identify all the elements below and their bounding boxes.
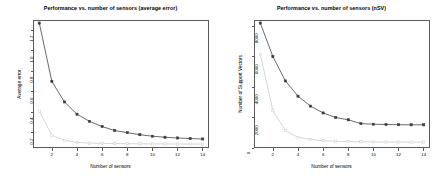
data-point-marker: [76, 141, 78, 143]
x-tick-mark: [323, 148, 324, 151]
data-point-marker: [347, 119, 349, 121]
y-tick-label: 0.8: [29, 77, 34, 83]
data-point-marker: [372, 141, 374, 143]
x-tick-label: 12: [389, 152, 409, 157]
x-tick-mark: [127, 148, 128, 151]
data-point-marker: [114, 143, 116, 145]
x-tick-mark: [398, 148, 399, 151]
data-point-marker: [335, 116, 337, 118]
data-point-marker: [126, 132, 128, 134]
x-tick-label: 4: [67, 152, 87, 157]
data-point-marker: [76, 113, 78, 115]
data-point-marker: [202, 138, 204, 140]
data-point-marker: [284, 80, 286, 82]
y-tick-mark: [252, 26, 255, 27]
x-tick-mark: [102, 148, 103, 151]
x-tick-label: 12: [168, 152, 188, 157]
data-point-marker: [309, 138, 311, 140]
x-tick-mark: [52, 148, 53, 151]
data-point-marker: [397, 141, 399, 143]
y-tick-label: 0: [246, 152, 251, 154]
x-tick-label: 10: [363, 152, 383, 157]
data-point-marker: [397, 124, 399, 126]
series-line: [260, 23, 423, 125]
y-tick-label: 4000: [254, 94, 259, 104]
data-point-marker: [202, 143, 204, 145]
x-tick-label: 14: [414, 152, 434, 157]
x-tick-label: 4: [288, 152, 308, 157]
data-point-marker: [51, 134, 53, 136]
data-point-marker: [360, 141, 362, 143]
x-tick-label: 2: [42, 152, 62, 157]
x-tick-mark: [273, 148, 274, 151]
x-tick-mark: [373, 148, 374, 151]
x-tick-label: 2: [263, 152, 283, 157]
data-point-marker: [101, 142, 103, 144]
y-tick-mark: [31, 30, 34, 31]
data-point-marker: [176, 143, 178, 145]
data-point-marker: [385, 141, 387, 143]
data-point-marker: [410, 124, 412, 126]
y-tick-label: 0.4: [29, 118, 34, 124]
data-point-marker: [51, 80, 53, 82]
data-point-marker: [139, 134, 141, 136]
y-tick-label: 0.6: [29, 97, 34, 103]
x-tick-mark: [298, 148, 299, 151]
x-tick-label: 6: [313, 152, 333, 157]
y-tick-mark: [31, 112, 34, 113]
series-line: [39, 23, 202, 139]
data-point-marker: [385, 123, 387, 125]
data-point-marker: [259, 22, 261, 24]
data-point-marker: [63, 101, 65, 103]
data-point-marker: [164, 143, 166, 145]
x-tick-label: 8: [338, 152, 358, 157]
x-tick-mark: [423, 148, 424, 151]
data-point-marker: [360, 123, 362, 125]
x-tick-mark: [77, 148, 78, 151]
data-point-marker: [151, 135, 153, 137]
data-point-marker: [284, 129, 286, 131]
data-point-marker: [410, 141, 412, 143]
data-point-marker: [297, 136, 299, 138]
data-point-marker: [189, 137, 191, 139]
data-point-marker: [114, 129, 116, 131]
y-tick-mark: [252, 148, 255, 149]
data-point-marker: [423, 141, 425, 143]
data-point-marker: [297, 95, 299, 97]
series-line: [260, 54, 423, 142]
data-point-marker: [259, 53, 261, 55]
data-point-marker: [88, 120, 90, 122]
data-point-marker: [126, 143, 128, 145]
chart-panel-average-error: Performance vs. number of sensors (avera…: [0, 0, 221, 182]
data-point-marker: [189, 143, 191, 145]
y-tick-label: 2000: [254, 125, 259, 135]
y-tick-mark: [252, 87, 255, 88]
data-point-marker: [309, 105, 311, 107]
data-point-marker: [347, 141, 349, 143]
y-tick-label: 1.0: [29, 56, 34, 62]
y-tick-mark: [252, 117, 255, 118]
data-point-marker: [176, 137, 178, 139]
data-point-marker: [335, 140, 337, 142]
x-tick-label: 14: [193, 152, 213, 157]
y-tick-mark: [31, 91, 34, 92]
y-tick-label: 0.2: [29, 138, 34, 144]
data-point-marker: [151, 143, 153, 145]
data-point-marker: [38, 110, 40, 112]
x-tick-mark: [152, 148, 153, 151]
y-tick-mark: [252, 56, 255, 57]
y-tick-label: 8000: [254, 33, 259, 43]
data-point-marker: [139, 143, 141, 145]
data-point-marker: [63, 139, 65, 141]
chart-panel-nsv: Performance vs. number of sensors (nSV) …: [221, 0, 442, 182]
data-point-marker: [322, 140, 324, 142]
data-point-marker: [272, 110, 274, 112]
data-point-marker: [101, 125, 103, 127]
x-tick-mark: [348, 148, 349, 151]
data-point-marker: [38, 22, 40, 24]
data-point-marker: [164, 136, 166, 138]
figure-two-panel-charts: Performance vs. number of sensors (avera…: [0, 0, 442, 182]
x-tick-label: 8: [117, 152, 137, 157]
data-point-marker: [372, 123, 374, 125]
x-tick-mark: [202, 148, 203, 151]
